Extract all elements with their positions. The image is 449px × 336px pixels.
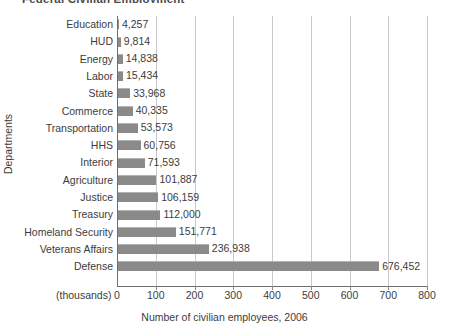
category-label: Education	[0, 16, 113, 33]
bar-value-label: 151,771	[179, 225, 217, 238]
bar-value-label: 101,887	[159, 173, 197, 186]
category-label: State	[0, 85, 113, 102]
bar-value-label: 40,335	[136, 104, 168, 117]
bar-row: 4,257	[117, 16, 427, 33]
y-axis-line	[117, 16, 118, 286]
bar-value-label: 15,434	[126, 69, 158, 82]
x-tick-label: 600	[330, 289, 370, 302]
category-label: Agriculture	[0, 172, 113, 189]
x-tick-label: 400	[252, 289, 292, 302]
bar-row: 9,814	[117, 33, 427, 50]
category-label-column: EducationHUDEnergyLaborStateCommerceTran…	[0, 16, 113, 286]
category-label: Energy	[0, 51, 113, 68]
chart-title: Federal Civilian Employment	[22, 0, 322, 3]
bar-value-label: 33,968	[133, 87, 165, 100]
bar-value-label: 9,814	[124, 35, 150, 48]
category-label: Defense	[0, 258, 113, 275]
category-label: HHS	[0, 137, 113, 154]
bar-chart: Federal Civilian Employment Departments …	[0, 0, 449, 336]
units-note: (thousands)	[56, 289, 111, 302]
bar-row: 14,838	[117, 51, 427, 68]
bar-row: 101,887	[117, 172, 427, 189]
category-label: Interior	[0, 154, 113, 171]
bar	[117, 227, 176, 237]
category-label: Homeland Security	[0, 224, 113, 241]
bar-value-label: 14,838	[126, 52, 158, 65]
category-label: Treasury	[0, 206, 113, 223]
bar-value-label: 4,257	[122, 18, 148, 31]
category-label: Commerce	[0, 103, 113, 120]
category-label: Justice	[0, 189, 113, 206]
bar-row: 236,938	[117, 241, 427, 258]
x-tick-label: 100	[136, 289, 176, 302]
bar-row: 33,968	[117, 85, 427, 102]
bar-row: 151,771	[117, 224, 427, 241]
x-tick-label: 200	[175, 289, 215, 302]
bar	[117, 140, 141, 150]
bar	[117, 261, 379, 271]
bar-value-label: 53,573	[141, 121, 173, 134]
bar-row: 106,159	[117, 189, 427, 206]
category-label: Transportation	[0, 120, 113, 137]
category-label: HUD	[0, 33, 113, 50]
bar-row: 53,573	[117, 120, 427, 137]
bar-row: 60,756	[117, 137, 427, 154]
plot-area: 4,2579,81414,83815,43433,96840,33553,573…	[117, 16, 427, 286]
bar-rows: 4,2579,81414,83815,43433,96840,33553,573…	[117, 16, 427, 286]
bar-row: 676,452	[117, 258, 427, 275]
bar	[117, 106, 133, 116]
bar-value-label: 106,159	[161, 191, 199, 204]
bar	[117, 210, 160, 220]
bar	[117, 244, 209, 254]
x-tick-label: 300	[213, 289, 253, 302]
x-axis-label: Number of civilian employees, 2006	[0, 311, 449, 323]
gridline	[427, 16, 428, 286]
bar	[117, 88, 130, 98]
bar-value-label: 60,756	[144, 139, 176, 152]
bar-value-label: 71,593	[148, 156, 180, 169]
x-tick-label: 800	[407, 289, 447, 302]
bar-row: 15,434	[117, 68, 427, 85]
bar-value-label: 236,938	[212, 242, 250, 255]
bar-value-label: 112,000	[163, 208, 200, 221]
bar	[117, 175, 156, 185]
bar-row: 112,000	[117, 206, 427, 223]
bar-row: 71,593	[117, 154, 427, 171]
bar	[117, 192, 158, 202]
bar-value-label: 676,452	[382, 260, 420, 273]
bar	[117, 158, 145, 168]
x-tick-label: 700	[368, 289, 408, 302]
category-label: Veterans Affairs	[0, 241, 113, 258]
bar	[117, 123, 138, 133]
bar-row: 40,335	[117, 103, 427, 120]
x-tick-label: 500	[291, 289, 331, 302]
category-label: Labor	[0, 68, 113, 85]
